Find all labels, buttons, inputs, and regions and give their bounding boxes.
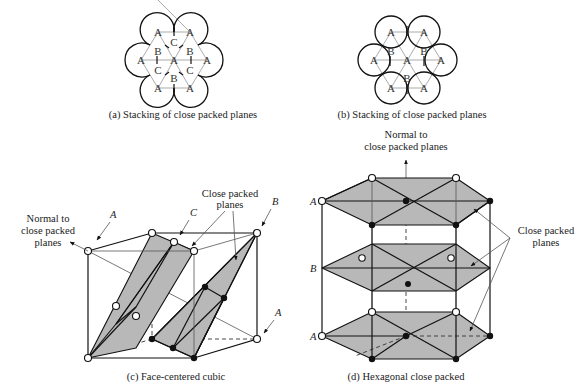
normal-label-line2: close packed bbox=[21, 225, 76, 236]
atom-label: A bbox=[137, 54, 145, 66]
layer-label-b: B bbox=[272, 196, 279, 207]
layer-label-middle: B bbox=[310, 263, 317, 274]
layer-label-a-bottom: A bbox=[274, 307, 282, 318]
atom-label: A bbox=[203, 54, 211, 66]
atom-label: C bbox=[154, 64, 161, 76]
normal-arrow bbox=[70, 242, 88, 251]
layer-label-top: A bbox=[309, 196, 317, 207]
atom-label: A bbox=[387, 82, 395, 94]
atom-label: A bbox=[370, 54, 378, 66]
atom-label: A bbox=[420, 82, 428, 94]
atom-label: A bbox=[186, 82, 194, 94]
atom-label: B bbox=[420, 45, 427, 57]
atom-label: A bbox=[420, 26, 428, 38]
atom-label: A bbox=[170, 54, 178, 66]
close-packed-label-line1: Close packed bbox=[518, 225, 575, 236]
atom-label: A bbox=[154, 82, 162, 94]
atom-label: B bbox=[170, 72, 177, 84]
close-packed-label-line2: planes bbox=[217, 199, 244, 210]
hcp-layer-labels: A B A bbox=[309, 196, 317, 342]
atom-label: B bbox=[186, 45, 193, 57]
atom-label: A bbox=[186, 26, 194, 38]
atom-label: A bbox=[387, 26, 395, 38]
atom-label: A bbox=[437, 54, 445, 66]
atom-label: A bbox=[403, 54, 411, 66]
crystal-structures-figure: A A C B B A A A C C B A A (a) Stacking o… bbox=[0, 0, 587, 392]
panel-c-caption: (c) Face-centered cubic bbox=[127, 371, 226, 383]
panel-a-caption: (a) Stacking of close packed planes bbox=[109, 109, 257, 121]
atom-label: C bbox=[170, 36, 177, 48]
panel-b-caption: (b) Stacking of close packed planes bbox=[338, 109, 487, 121]
layer-label-a-top: A bbox=[109, 209, 117, 220]
atom-label: B bbox=[387, 45, 394, 57]
panel-a-stacking-abc: A A C B B A A A C C B A A (a) Stacking o… bbox=[109, 0, 257, 121]
close-packed-label-line2: planes bbox=[533, 237, 560, 248]
panel-d-caption: (d) Hexagonal close packed bbox=[348, 371, 466, 383]
atom-label: A bbox=[154, 26, 162, 38]
close-packed-label-line1: Close packed bbox=[202, 188, 259, 199]
normal-label-line1: Normal to bbox=[27, 213, 70, 224]
panel-d-hcp: Normal to close packed planes A B A Clos… bbox=[309, 129, 575, 383]
layer-label-bottom: A bbox=[309, 331, 317, 342]
atom-label: B bbox=[154, 45, 161, 57]
normal-label-line2: close packed planes bbox=[364, 141, 447, 152]
layer-label-c: C bbox=[190, 207, 198, 218]
panel-b-stacking-ab: A A B B A A A B A A (b) Stacking of clos… bbox=[338, 16, 487, 121]
normal-label-line1: Normal to bbox=[385, 129, 428, 140]
panel-c-fcc-cube: Normal to close packed planes A C B A Cl… bbox=[21, 188, 282, 383]
atom-label: C bbox=[186, 64, 193, 76]
fcc-normal-annotation: Normal to close packed planes bbox=[21, 213, 88, 251]
hcp-normal-annotation: Normal to close packed planes bbox=[364, 129, 447, 152]
atom-label: B bbox=[403, 72, 410, 84]
normal-label-line3: planes bbox=[35, 237, 62, 248]
